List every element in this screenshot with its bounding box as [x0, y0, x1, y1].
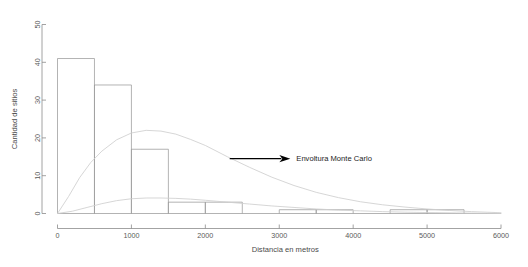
- histogram-bar: [94, 85, 131, 214]
- histogram-bar: [131, 149, 168, 213]
- y-axis-title: Cantidad de sitios: [10, 89, 19, 150]
- x-axis: 0100020003000400050006000: [56, 225, 510, 241]
- monte-carlo-envelope-curves: [58, 130, 502, 213]
- y-tick-label: 40: [33, 58, 42, 66]
- annotation-label: Envoltura Monte Carlo: [296, 154, 372, 163]
- y-axis-ticks: 01020304050: [33, 21, 46, 216]
- histogram-bar: [58, 59, 95, 214]
- x-tick-label: 0: [56, 231, 60, 240]
- x-axis-title: Distancia en metros: [252, 245, 319, 254]
- histogram-chart: 01020304050 0100020003000400050006000 En…: [0, 0, 528, 267]
- histogram-bar: [279, 210, 316, 214]
- y-tick-label: 50: [33, 21, 42, 29]
- x-tick-label: 6000: [493, 231, 509, 240]
- histogram-bar: [168, 202, 205, 213]
- chart-figure: 01020304050 0100020003000400050006000 En…: [0, 0, 528, 267]
- histogram-bar: [205, 202, 242, 213]
- y-tick-label: 20: [33, 134, 42, 142]
- x-tick-label: 1000: [123, 231, 139, 240]
- x-tick-label: 4000: [345, 231, 361, 240]
- y-tick-label: 0: [33, 212, 42, 216]
- x-tick-label: 2000: [197, 231, 213, 240]
- envelope-curve: [58, 130, 502, 213]
- x-axis-ticks: 0100020003000400050006000: [56, 225, 510, 241]
- x-tick-label: 5000: [419, 231, 435, 240]
- monte-carlo-annotation: Envoltura Monte Carlo: [230, 154, 372, 163]
- y-axis: 01020304050: [33, 21, 46, 216]
- y-tick-label: 10: [33, 172, 42, 180]
- y-tick-label: 30: [33, 96, 42, 104]
- x-tick-label: 3000: [271, 231, 287, 240]
